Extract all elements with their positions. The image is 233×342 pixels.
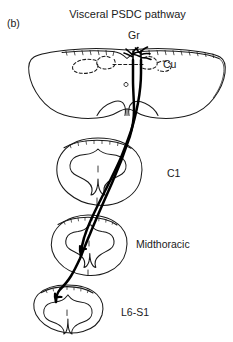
visceral-psdc-pathway-figure: (b) Visceral PSDC pathway (0, 0, 233, 342)
c1-outline (57, 138, 142, 205)
anatomical-diagram (0, 0, 233, 342)
c1-dorsal-striations (70, 141, 126, 148)
central-canal-medulla (124, 83, 128, 87)
gracile-nucleus-outline-left (97, 56, 115, 69)
cuneate-nucleus-label: Cu (163, 59, 176, 70)
pyramid-left (97, 101, 125, 115)
c1-spinal-cord-section (57, 138, 142, 205)
medulla-section (29, 49, 226, 119)
psdc-axon-tracts (55, 47, 151, 302)
cuneate-nucleus-outline-left (73, 59, 98, 73)
lumbosacral-level-label: L6-S1 (121, 307, 149, 318)
c1-level-label: C1 (167, 168, 180, 179)
gracile-nucleus-label: Gr (128, 30, 140, 41)
lumbosacral-spinal-cord-section (34, 285, 103, 334)
midthoracic-level-label: Midthoracic (136, 239, 190, 250)
